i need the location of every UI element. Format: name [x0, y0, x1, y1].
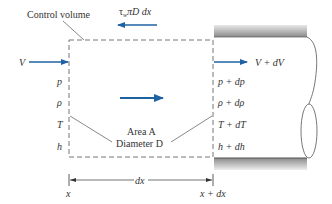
outlet-density: ρ + dρ — [217, 97, 245, 108]
x-left-label: x — [65, 188, 71, 199]
control-volume-diagram: Control volume τwπD dx V V + dV p ρ T h … — [0, 0, 332, 204]
outlet-velocity-label: V + dV — [255, 57, 286, 68]
pipe-cut-outline — [307, 37, 317, 104]
outlet-properties: p + dp ρ + dρ T + dT h + dh — [217, 76, 247, 152]
outlet-temperature: T + dT — [218, 119, 247, 130]
pipe-cross-section — [301, 104, 317, 158]
x-right-label: x + dx — [199, 188, 226, 199]
control-volume-leader — [63, 21, 84, 40]
dx-label: dx — [135, 175, 145, 186]
shear-force-label: τwπD dx — [119, 6, 152, 18]
outlet-enthalpy: h + dh — [218, 141, 245, 152]
inlet-enthalpy: h — [57, 141, 62, 152]
inlet-temperature: T — [57, 119, 64, 130]
pipe-wall-bottom — [214, 158, 307, 170]
outlet-pressure: p + dp — [217, 76, 245, 87]
pipe-wall-top — [214, 25, 307, 37]
inlet-velocity-label: V — [19, 57, 27, 68]
inlet-density: ρ — [56, 97, 62, 108]
area-label: Area A — [127, 126, 156, 137]
diameter-label: Diameter D — [116, 138, 163, 149]
inlet-pressure: p — [56, 76, 62, 87]
area-leader-right — [171, 116, 212, 142]
area-leader-left — [70, 116, 112, 142]
inlet-properties: p ρ T h — [56, 76, 64, 152]
control-volume-label: Control volume — [27, 9, 91, 20]
